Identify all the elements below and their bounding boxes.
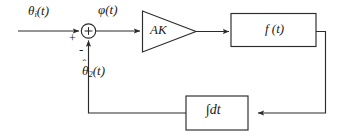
label-error-signal: φ(t) [98,3,117,16]
label-input-signal: θi(t) [28,4,49,19]
summing-junction-sign-negative: - [79,43,83,56]
label-integrator-block: ∫dt [206,103,221,117]
block-diagram-canvas: θi(t) φ(t) AK f (t) ˆθ2(t) ∫dt + - [0,0,344,138]
label-feedback-arg: (t) [93,63,105,78]
hat-accent-icon: ˆ [82,58,86,69]
label-feedback-theta-hat-group: ˆθ [82,64,88,77]
label-input-signal-arg: (t) [37,3,49,18]
label-plant-block: f (t) [265,22,284,35]
summing-junction-sign-positive: + [69,32,76,44]
label-amplifier-gain: AK [150,23,167,36]
label-feedback-signal: ˆθ2(t) [82,64,105,79]
diagram-vector-layer [0,0,344,138]
